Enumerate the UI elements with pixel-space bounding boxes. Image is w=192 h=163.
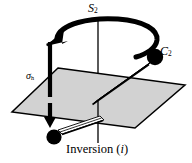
inverted-atom-ball-lower xyxy=(46,129,61,144)
c2-rotation-arc-arrow xyxy=(46,19,157,57)
c2-rotation-label: C2 xyxy=(160,45,172,58)
inversion-text: Inversion ( xyxy=(66,142,121,156)
sigma-h-label: σh xyxy=(26,71,34,81)
sigma-subscript: h xyxy=(31,74,34,81)
inversion-label: Inversion (i) xyxy=(66,143,128,156)
diagram-canvas xyxy=(0,0,192,163)
inversion-text-end: ) xyxy=(124,142,128,156)
s2-subscript: 2 xyxy=(94,6,98,15)
s2-axis-label: S2 xyxy=(88,2,98,15)
c2-symbol: C xyxy=(160,44,168,58)
symmetry-diagram-figure: S2 C2 σh Inversion (i) xyxy=(0,0,192,163)
c2-subscript: 2 xyxy=(168,49,172,58)
sigma-h-bar-top-cap xyxy=(46,40,54,49)
